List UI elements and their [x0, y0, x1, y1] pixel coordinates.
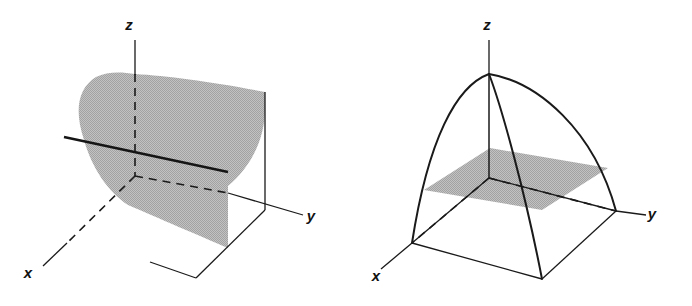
- x-axis-visible: [381, 243, 412, 269]
- y-axis-visible: [616, 211, 646, 215]
- x-axis-dashed: [67, 176, 135, 243]
- elliptic-dome-svg: z x y: [346, 0, 692, 306]
- figure-elliptic-dome: z x y: [346, 0, 692, 306]
- base-edge-left-front: [412, 243, 542, 279]
- axis-label-y: y: [306, 207, 316, 224]
- base-edge-right-front: [542, 211, 616, 279]
- figure-page: z x y: [0, 0, 692, 306]
- front-bottom-edge-right: [150, 262, 196, 278]
- axis-label-x: x: [23, 264, 33, 281]
- axis-label-z: z: [124, 16, 133, 33]
- axis-label-x: x: [371, 267, 381, 284]
- parabolic-cylinder-svg: z x y: [0, 0, 346, 306]
- shaded-cross-section-plane: [424, 148, 608, 210]
- axis-label-y: y: [647, 205, 657, 222]
- x-axis-visible: [43, 243, 67, 266]
- axis-label-z: z: [482, 16, 491, 33]
- figure-parabolic-cylinder: z x y: [0, 0, 346, 306]
